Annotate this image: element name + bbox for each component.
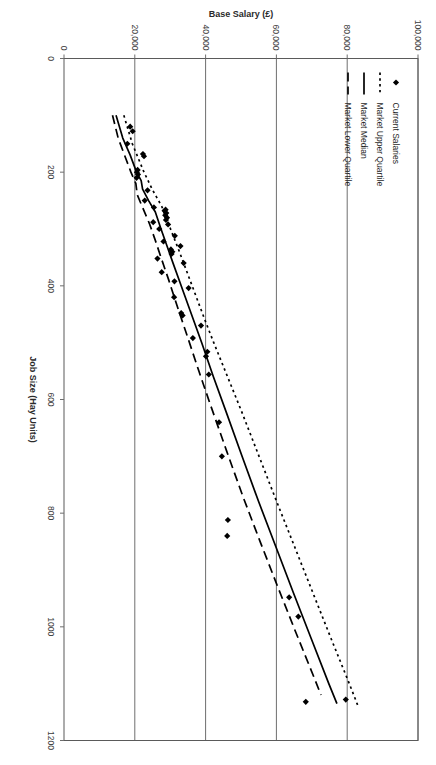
x-tick-label: 200 — [46, 165, 56, 179]
chart-canvas: 020040060080010001200 020,00040,00060,00… — [0, 0, 436, 765]
data-point-marker — [303, 698, 309, 704]
x-axis-title: Job Size (Hay Units) — [28, 356, 38, 443]
legend-label: Market Lower Quartile — [343, 102, 353, 186]
data-point-marker — [186, 285, 192, 291]
data-point-marker — [181, 260, 187, 266]
y-tick-label: 80,000 — [342, 24, 352, 50]
series-layer — [113, 115, 359, 706]
series-market-median — [116, 115, 337, 703]
x-tick-label: 0 — [46, 56, 56, 61]
data-point-marker — [150, 219, 156, 225]
x-tick-label: 600 — [46, 392, 56, 406]
x-axis-tick-labels: 020040060080010001200 — [46, 56, 64, 750]
y-tick-label: 0 — [59, 45, 69, 50]
legend-label: Market Upper Quartile — [375, 102, 385, 186]
data-point-marker — [159, 269, 165, 275]
chart-figure: 020040060080010001200 020,00040,00060,00… — [0, 0, 436, 765]
x-tick-label: 1200 — [46, 731, 56, 750]
legend-label: Market Median — [359, 102, 369, 158]
data-point-marker — [286, 594, 292, 600]
y-tick-label: 60,000 — [271, 24, 281, 50]
y-tick-label: 100,000 — [413, 19, 423, 50]
legend-marker-diamond — [393, 79, 399, 85]
data-point-marker — [177, 242, 183, 248]
data-point-marker — [224, 532, 230, 538]
y-tick-label: 20,000 — [130, 24, 140, 50]
series-current-salaries — [124, 123, 349, 704]
x-tick-label: 1000 — [46, 617, 56, 636]
data-point-marker — [343, 696, 349, 702]
y-axis-title: Base Salary (£) — [209, 8, 274, 18]
salary-vs-job-size-chart: 020040060080010001200 020,00040,00060,00… — [0, 0, 436, 765]
chart-legend: Current SalariesMarket Upper QuartileMar… — [343, 72, 401, 186]
x-tick-label: 400 — [46, 278, 56, 292]
x-tick-label: 800 — [46, 506, 56, 520]
data-point-marker — [225, 516, 231, 522]
legend-label: Current Salaries — [391, 102, 401, 163]
y-axis-tick-labels: 020,00040,00060,00080,000100,000 — [59, 19, 423, 58]
data-point-marker — [295, 613, 301, 619]
data-point-marker — [144, 187, 150, 193]
data-point-marker — [198, 322, 204, 328]
legend-item-market-upper-quartile[interactable]: Market Upper Quartile — [375, 72, 385, 186]
data-point-marker — [190, 335, 196, 341]
legend-item-market-median[interactable]: Market Median — [359, 72, 369, 158]
data-point-marker — [219, 453, 225, 459]
series-market-upper-quartile — [124, 115, 358, 706]
plot-frame — [64, 58, 418, 740]
y-tick-label: 40,000 — [201, 24, 211, 50]
legend-item-current-salaries[interactable]: Current Salaries — [391, 79, 401, 164]
legend-item-market-lower-quartile[interactable]: Market Lower Quartile — [343, 72, 353, 186]
data-point-marker — [171, 278, 177, 284]
